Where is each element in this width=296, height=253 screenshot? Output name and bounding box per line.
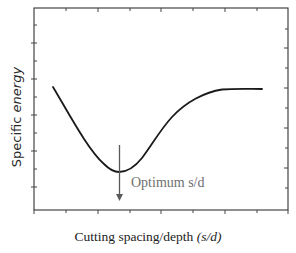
x-axis-label-plain: Cutting spacing/depth bbox=[75, 229, 197, 244]
specific-energy-curve bbox=[53, 87, 262, 172]
y-axis-label: Specific energy bbox=[9, 47, 27, 187]
chart-canvas bbox=[0, 0, 296, 253]
optimum-arrow bbox=[116, 145, 123, 201]
x-axis-label: Cutting spacing/depth (s/d) bbox=[0, 229, 296, 245]
x-axis-label-italic: (s/d) bbox=[197, 229, 222, 244]
x-axis-ticks bbox=[34, 210, 288, 214]
y-axis-label-italic: energy bbox=[9, 67, 24, 113]
y-axis-label-plain: Specific bbox=[9, 112, 24, 167]
top-axis-ticks bbox=[66, 8, 257, 12]
right-axis-ticks bbox=[284, 29, 288, 188]
optimum-annotation: Optimum s/d bbox=[131, 175, 205, 191]
